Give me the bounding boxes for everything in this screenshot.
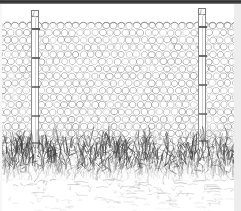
ground-band: [0, 0, 241, 211]
top-border-band: [0, 0, 241, 4]
fence-illustration: Hexagonal wire mesh fence with posts and…: [0, 0, 241, 211]
right-margin-strip: [234, 4, 241, 211]
left-margin-strip: [0, 4, 2, 211]
